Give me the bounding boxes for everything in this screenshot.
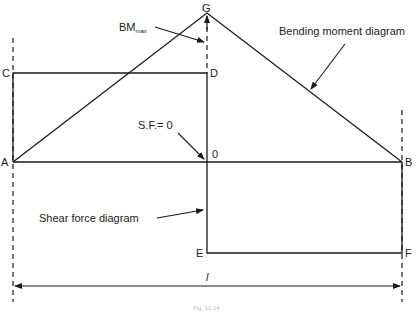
bending-moment-pointer-arrow <box>311 44 345 89</box>
bending-moment-label: Bending moment diagram <box>279 25 405 37</box>
bm-max-label: BMmax <box>119 21 147 34</box>
point-label-f: F <box>405 247 412 259</box>
point-label-d: D <box>210 67 218 79</box>
point-label-o: 0 <box>212 148 218 160</box>
point-label-a: A <box>1 156 9 168</box>
bending-shear-diagram: G C D A 0 B E F BMmax S.F.= 0 Bending mo… <box>0 0 420 316</box>
shear-force-label: Shear force diagram <box>39 212 139 224</box>
span-label: l <box>206 271 209 283</box>
sf-zero-label: S.F.= 0 <box>138 119 173 131</box>
point-label-c: C <box>2 67 10 79</box>
shear-force-pointer-arrow <box>157 210 203 218</box>
shear-force-negative-region <box>207 162 402 253</box>
point-label-g: G <box>202 2 211 14</box>
shear-force-positive-region <box>13 73 207 162</box>
sf-zero-pointer-arrow <box>178 133 204 159</box>
point-label-b: B <box>405 156 412 168</box>
figure-caption: Fig. 10.14 <box>193 305 220 311</box>
bm-max-pointer-arrow <box>155 27 204 42</box>
point-label-e: E <box>196 247 203 259</box>
